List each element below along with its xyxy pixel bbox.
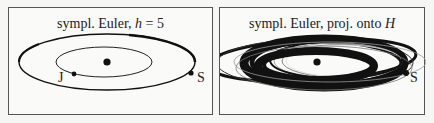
saturn-orbit-thick-arc-left [19, 44, 39, 62]
jupiter-label: J [58, 70, 63, 86]
saturn-dot [188, 70, 193, 75]
saturn-label: S [197, 70, 205, 86]
title-text: sympl. Euler, [57, 16, 135, 31]
title-variable: h [135, 16, 142, 31]
title-variable: H [385, 16, 395, 31]
sun-dot [313, 58, 320, 65]
panel-title: sympl. Euler, proj. onto H [220, 16, 424, 32]
title-suffix: = 5 [142, 16, 164, 31]
sun-dot [103, 58, 110, 65]
panel-symplectic-euler-projected: sympl. Euler, proj. onto H S [219, 7, 425, 115]
title-text: sympl. Euler, proj. onto [249, 16, 385, 31]
precessing-orbits [220, 34, 426, 90]
jupiter-dot [72, 72, 77, 77]
panel-symplectic-euler-h5: sympl. Euler, h = 5 J S [8, 7, 213, 115]
saturn-orbit-thick-arc [129, 35, 195, 62]
saturn-label: S [410, 70, 418, 86]
panel-title: sympl. Euler, h = 5 [9, 16, 212, 32]
